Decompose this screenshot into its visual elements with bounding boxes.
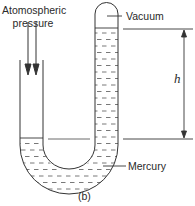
pressure-arrows-icon [25, 22, 39, 75]
barometer-diagram [0, 0, 195, 206]
height-label: h [174, 73, 181, 85]
height-dimension-arrow [182, 30, 187, 138]
vacuum-label: Vacuum [126, 10, 164, 22]
figure-caption: (b) [78, 190, 91, 202]
atmospheric-label-line1: Atomospheric [2, 4, 64, 16]
atmospheric-label-line2: pressure [2, 17, 64, 29]
mercury-label: Mercury [128, 160, 166, 172]
